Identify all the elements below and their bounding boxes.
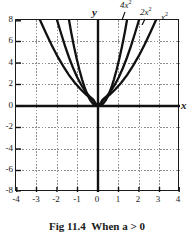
- y-tick-4: 4: [0, 58, 13, 67]
- figure-caption-text: When a > 0: [91, 220, 145, 232]
- x-axis-label: x: [181, 100, 187, 111]
- plot-canvas: [16, 20, 180, 192]
- x-tick-labels: -4 -3 -2 -1 0 1 2 3 4: [0, 194, 194, 208]
- x-tick-minus-1: -1: [69, 194, 85, 204]
- x-tick-3: 3: [150, 194, 166, 204]
- curve-label-4x-squared-base: 4x: [120, 0, 129, 10]
- x-tick-minus-3: -3: [28, 194, 44, 204]
- plot-area: [15, 19, 179, 191]
- figure-caption: Fig 11.4 When a > 0: [0, 220, 194, 233]
- curve-label-2x-squared: 2x2: [140, 8, 152, 17]
- curve-label-2x-squared-exponent: 2: [149, 6, 152, 12]
- x-tick-4: 4: [170, 194, 186, 204]
- curve-label-x-squared-exponent: 2: [165, 11, 168, 17]
- curve-label-2x-squared-base: 2x: [140, 7, 149, 17]
- figure-container: 8 6 4 2 0 -2 -4 -6 -8 -4 -3 -2 -1 0 1 2 …: [0, 0, 194, 237]
- y-tick-8: 8: [0, 15, 13, 24]
- y-tick-minus-4: -4: [0, 144, 13, 153]
- curve-label-x-squared: x2: [161, 13, 168, 22]
- curve-label-4x-squared-exponent: 2: [129, 0, 132, 5]
- x-tick-1: 1: [110, 194, 126, 204]
- y-tick-6: 6: [0, 36, 13, 45]
- y-tick-minus-2: -2: [0, 122, 13, 131]
- y-tick-minus-6: -6: [0, 165, 13, 174]
- y-tick-2: 2: [0, 79, 13, 88]
- x-tick-2: 2: [130, 194, 146, 204]
- y-tick-0: 0: [0, 101, 13, 110]
- x-tick-minus-2: -2: [48, 194, 64, 204]
- curve-label-4x-squared: 4x2: [120, 1, 132, 10]
- figure-caption-number: Fig 11.4: [49, 220, 86, 232]
- y-axis-label: y: [92, 7, 97, 18]
- x-tick-0: 0: [89, 194, 105, 204]
- x-tick-minus-4: -4: [8, 194, 24, 204]
